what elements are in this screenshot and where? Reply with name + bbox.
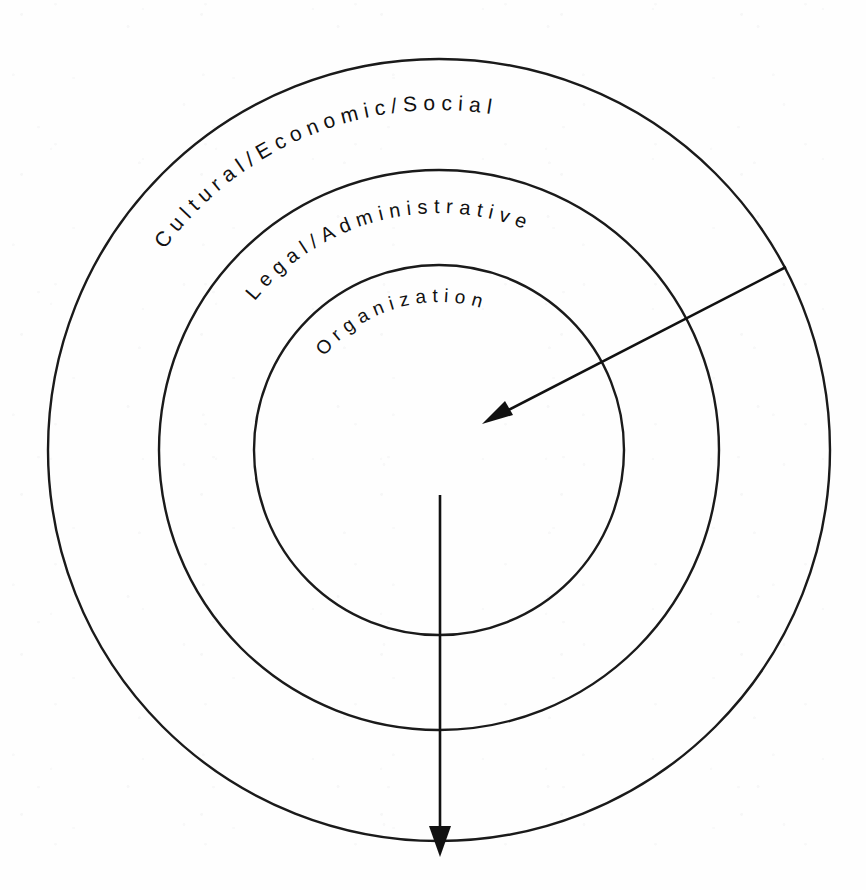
- middle-ring-label-text: Legal/Administrative: [241, 195, 536, 304]
- middle-ring-label: Legal/Administrative: [241, 195, 536, 304]
- environment-influence-arrow-head: [482, 401, 513, 424]
- organization-output-arrow: [429, 495, 451, 857]
- environment-influence-arrow: [482, 267, 786, 424]
- concentric-circles-diagram: Cultural/Economic/Social Legal/Administr…: [0, 0, 866, 890]
- environment-influence-arrow-shaft: [497, 267, 786, 416]
- diagram-canvas: Cultural/Economic/Social Legal/Administr…: [0, 0, 866, 890]
